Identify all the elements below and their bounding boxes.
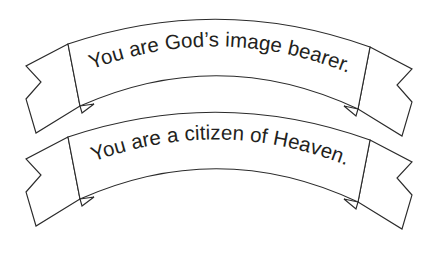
ribbon-banner-illustration: You are God’s image bearer. You are a ci… <box>0 0 440 253</box>
